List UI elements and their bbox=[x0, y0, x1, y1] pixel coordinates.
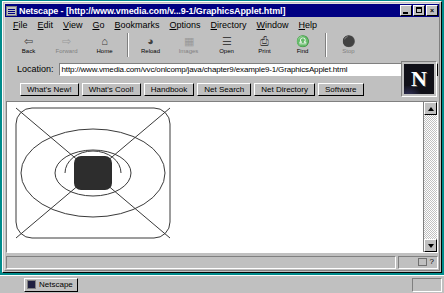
netscape-logo-letter: N bbox=[411, 68, 427, 90]
dirbutton-whats-cool[interactable]: What's Cool! bbox=[82, 83, 141, 96]
status-indicators: ? bbox=[398, 256, 438, 269]
toolbar-button-print[interactable]: ⎙ Print bbox=[246, 32, 283, 58]
location-label: Location: bbox=[17, 64, 54, 74]
menu-go[interactable]: Go bbox=[87, 20, 109, 30]
directory-buttons-bar: What's New! What's Cool! Handbook Net Se… bbox=[6, 81, 392, 97]
toolbar-label-home: Home bbox=[96, 48, 112, 55]
triangle-up-icon[interactable] bbox=[424, 102, 437, 115]
toolbar-button-open[interactable]: ☰ Open bbox=[208, 32, 245, 58]
open-icon: ☰ bbox=[222, 34, 232, 48]
broken-key-icon bbox=[418, 258, 427, 266]
scrollbar-track[interactable] bbox=[424, 115, 437, 239]
question-mark-icon[interactable]: ? bbox=[430, 258, 434, 266]
menu-view[interactable]: View bbox=[58, 20, 87, 30]
graphics-applet-drawing bbox=[12, 104, 180, 246]
shape-filled-round-rect bbox=[74, 156, 112, 190]
printer-icon: ⎙ bbox=[260, 34, 269, 48]
menu-bookmarks[interactable]: Bookmarks bbox=[109, 20, 164, 30]
toolbar-button-stop[interactable]: ⚫ Stop bbox=[330, 32, 367, 58]
toolbar-label-stop: Stop bbox=[342, 48, 354, 55]
toolbar-button-reload[interactable]: ◕ Reload bbox=[132, 32, 169, 58]
statusbar: ? bbox=[6, 255, 438, 269]
toolbar-label-print: Print bbox=[258, 48, 270, 55]
toolbar-separator-1 bbox=[127, 33, 129, 57]
content-frame bbox=[6, 101, 438, 253]
binoculars-icon: ♎ bbox=[296, 34, 310, 48]
close-button[interactable]: × bbox=[426, 5, 438, 16]
vertical-scrollbar[interactable] bbox=[423, 102, 437, 252]
back-arrow-icon: ⇦ bbox=[24, 34, 33, 48]
dirbutton-net-directory[interactable]: Net Directory bbox=[254, 83, 315, 96]
toolbar-label-find: Find bbox=[297, 48, 309, 55]
menu-edit[interactable]: Edit bbox=[33, 20, 59, 30]
toolbar-button-forward[interactable]: ⇨ Forward bbox=[48, 32, 85, 58]
window-title: Netscape - [http://www.vmedia.com/v...9-… bbox=[19, 6, 400, 16]
dirbutton-handbook[interactable]: Handbook bbox=[144, 83, 194, 96]
dirbutton-net-search[interactable]: Net Search bbox=[197, 83, 251, 96]
toolbar-button-back[interactable]: ⇦ Back bbox=[10, 32, 47, 58]
reload-icon: ◕ bbox=[147, 34, 154, 48]
toolbar-label-open: Open bbox=[219, 48, 234, 55]
desktop: Netscape - [http://www.vmedia.com/v...9-… bbox=[0, 0, 444, 293]
toolbar-separator-2 bbox=[325, 33, 327, 57]
toolbar-label-forward: Forward bbox=[55, 48, 77, 55]
dirbutton-whats-new[interactable]: What's New! bbox=[20, 83, 79, 96]
location-bar: Location: http://www.vmedia.com/vvc/onlc… bbox=[6, 61, 438, 77]
netscape-logo-inner: N bbox=[404, 64, 434, 94]
stop-icon: ⚫ bbox=[342, 34, 356, 48]
taskbar-item-netscape[interactable]: Netscape bbox=[24, 278, 78, 292]
location-input[interactable]: http://www.vmedia.com/vvc/onlcomp/java/c… bbox=[59, 63, 426, 76]
forward-arrow-icon: ⇨ bbox=[62, 34, 71, 48]
menubar: File Edit View Go Bookmarks Options Dire… bbox=[5, 18, 439, 31]
netscape-window: Netscape - [http://www.vmedia.com/v...9-… bbox=[2, 1, 442, 273]
images-icon: ▦ bbox=[184, 34, 194, 48]
menu-help[interactable]: Help bbox=[294, 20, 323, 30]
dirbutton-software[interactable]: Software bbox=[318, 83, 364, 96]
home-icon: ⌂ bbox=[101, 34, 108, 48]
menu-file[interactable]: File bbox=[8, 20, 33, 30]
netscape-document-icon[interactable] bbox=[6, 6, 17, 16]
toolbar-label-reload: Reload bbox=[141, 48, 160, 55]
status-message bbox=[6, 256, 396, 269]
menu-options[interactable]: Options bbox=[164, 20, 205, 30]
toolbar-label-images: Images bbox=[179, 48, 199, 55]
applet-canvas[interactable] bbox=[7, 102, 423, 252]
minimize-button[interactable] bbox=[400, 5, 412, 16]
toolbar-button-home[interactable]: ⌂ Home bbox=[86, 32, 123, 58]
location-url-text: http://www.vmedia.com/vvc/onlcomp/java/c… bbox=[60, 65, 348, 74]
titlebar[interactable]: Netscape - [http://www.vmedia.com/v...9-… bbox=[5, 4, 439, 17]
menu-directory[interactable]: Directory bbox=[206, 20, 252, 30]
window-controls: × bbox=[400, 5, 438, 16]
toolbar-button-find[interactable]: ♎ Find bbox=[284, 32, 321, 58]
toolbar: ⇦ Back ⇨ Forward ⌂ Home ◕ Reload ▦ Image… bbox=[6, 32, 438, 59]
toolbar-button-images[interactable]: ▦ Images bbox=[170, 32, 207, 58]
toolbar-label-back: Back bbox=[22, 48, 35, 55]
netscape-icon bbox=[27, 280, 36, 289]
system-tray bbox=[412, 278, 442, 292]
taskbar-item-label: Netscape bbox=[39, 280, 73, 289]
menu-window[interactable]: Window bbox=[252, 20, 294, 30]
taskbar: Netscape bbox=[0, 275, 444, 293]
triangle-down-icon[interactable] bbox=[424, 239, 437, 252]
netscape-logo[interactable]: N bbox=[401, 61, 437, 97]
maximize-button[interactable] bbox=[413, 5, 425, 16]
